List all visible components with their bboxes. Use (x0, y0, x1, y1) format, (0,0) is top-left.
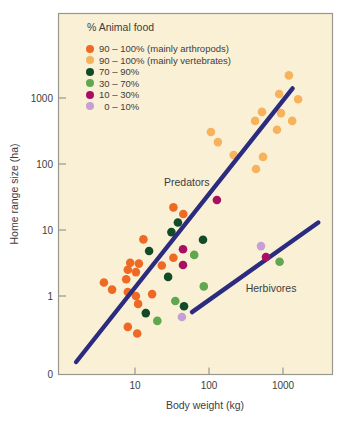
legend-item-animal-food-0-10: 0 – 10% (86, 101, 231, 113)
legend: % Animal food 90 – 100% (mainly arthropo… (86, 21, 231, 112)
point-animal-food-10-30 (179, 245, 188, 254)
point-animal-food-30-70 (200, 282, 209, 291)
line-label-predators: Predators (164, 176, 210, 188)
point-animal-food-70-90 (164, 273, 173, 282)
legend-title: % Animal food (87, 21, 231, 34)
point-arthropods-90-100 (108, 285, 117, 294)
legend-item-label: 70 – 90% (99, 66, 139, 77)
legend-item-label: 90 – 100% (mainly vertebrates) (99, 55, 231, 66)
point-animal-food-70-90 (180, 302, 189, 311)
point-vertebrates-90-100 (207, 128, 216, 137)
point-arthropods-90-100 (179, 210, 188, 219)
point-animal-food-0-10 (257, 242, 266, 251)
legend-item-label: 0 – 10% (99, 101, 139, 112)
legend-item-vertebrates-90-100: 90 – 100% (mainly vertebrates) (86, 55, 231, 67)
y-tick-label: 1 (47, 291, 53, 302)
legend-item-label: 10 – 30% (99, 89, 139, 100)
x-tick-label: 10 (129, 380, 141, 391)
line-label-herbivores: Herbivores (246, 282, 297, 294)
point-animal-food-30-70 (153, 317, 162, 326)
point-animal-food-10-30 (179, 261, 188, 270)
point-arthropods-90-100 (148, 290, 157, 299)
point-vertebrates-90-100 (285, 71, 294, 80)
point-arthropods-90-100 (135, 259, 144, 268)
point-animal-food-30-70 (190, 251, 199, 260)
point-vertebrates-90-100 (275, 90, 284, 99)
point-animal-food-70-90 (174, 218, 183, 227)
point-arthropods-90-100 (100, 278, 109, 287)
legend-item-label: 30 – 70% (99, 78, 139, 89)
point-animal-food-30-70 (275, 258, 284, 267)
point-vertebrates-90-100 (251, 117, 260, 126)
legend-swatch-icon (86, 102, 94, 110)
figure-home-range-vs-body-weight: 11010010000101001000 Home range size (ha… (0, 0, 346, 423)
legend-swatch-icon (86, 68, 94, 76)
legend-swatch-icon (86, 91, 94, 99)
point-arthropods-90-100 (122, 275, 131, 284)
point-vertebrates-90-100 (214, 138, 223, 147)
point-vertebrates-90-100 (288, 117, 297, 126)
legend-swatch-icon (86, 79, 94, 87)
point-animal-food-70-90 (199, 236, 208, 245)
point-arthropods-90-100 (169, 253, 178, 262)
point-arthropods-90-100 (133, 329, 142, 338)
point-animal-food-0-10 (178, 313, 187, 322)
point-animal-food-10-30 (213, 196, 222, 205)
point-arthropods-90-100 (158, 261, 167, 270)
legend-item-arthropods-90-100: 90 – 100% (mainly arthropods) (86, 43, 231, 55)
point-vertebrates-90-100 (273, 126, 282, 135)
point-vertebrates-90-100 (259, 153, 268, 162)
point-animal-food-70-90 (145, 247, 154, 256)
point-animal-food-70-90 (142, 309, 151, 318)
legend-swatch-icon (86, 45, 94, 53)
point-arthropods-90-100 (132, 268, 141, 277)
point-arthropods-90-100 (124, 323, 133, 332)
y-tick-label: 10 (42, 225, 54, 236)
legend-rows: 90 – 100% (mainly arthropods)90 – 100% (… (86, 43, 231, 112)
x-axis-title: Body weight (kg) (125, 398, 285, 412)
origin-tick-label: 0 (47, 369, 53, 380)
y-axis-title: Home range size (ha) (7, 113, 21, 275)
x-tick-label: 100 (201, 380, 218, 391)
y-tick-label: 100 (36, 159, 53, 170)
legend-item-label: 90 – 100% (mainly arthropods) (99, 43, 229, 54)
point-vertebrates-90-100 (252, 165, 261, 174)
point-arthropods-90-100 (169, 203, 178, 212)
legend-item-animal-food-30-70: 30 – 70% (86, 78, 231, 90)
point-arthropods-90-100 (134, 300, 143, 309)
point-animal-food-30-70 (171, 297, 180, 306)
point-vertebrates-90-100 (294, 95, 303, 104)
point-arthropods-90-100 (124, 265, 133, 274)
legend-swatch-icon (86, 56, 94, 64)
legend-item-animal-food-10-30: 10 – 30% (86, 89, 231, 101)
point-animal-food-10-30 (262, 253, 271, 262)
x-tick-label: 1000 (272, 380, 295, 391)
point-vertebrates-90-100 (258, 108, 267, 117)
point-arthropods-90-100 (139, 235, 148, 244)
y-tick-label: 1000 (31, 93, 54, 104)
legend-item-animal-food-70-90: 70 – 90% (86, 66, 231, 78)
